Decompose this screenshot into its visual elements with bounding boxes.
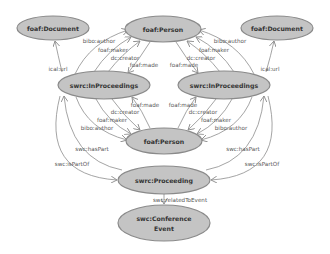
edge-label: swc:relatedToEvent [153, 197, 208, 203]
edge-label: foaf:maker [98, 47, 129, 53]
edge-label: foaf:made [131, 102, 160, 108]
node-proceeding[interactable]: swrc:Proceeding [118, 166, 210, 194]
node-label: foaf:Document [27, 25, 79, 32]
edge-is-part-of-left [56, 96, 117, 180]
edge-label: swc:hasPart [75, 146, 109, 152]
edge-label: dc:creator [111, 109, 140, 115]
edge-label: ical:url [49, 66, 68, 72]
node-document-left[interactable]: foaf:Document [17, 16, 89, 40]
edge-has-part-left [64, 96, 122, 170]
edge-label: ical:url [261, 66, 280, 72]
edge-label: foaf:made [169, 102, 198, 108]
node-label: foaf:Person [144, 138, 184, 145]
edge-has-part-right [206, 96, 264, 170]
edge-label: foaf:maker [97, 117, 128, 123]
edge-label: foaf:made [170, 62, 199, 68]
node-label-line2: Event [154, 225, 174, 232]
node-label-line1: swc:Conference [136, 215, 191, 222]
edge-label: bibo:author [214, 38, 247, 44]
node-inproceedings-right[interactable]: swrc:InProceedings [178, 71, 270, 99]
edge-label: swc:hasPart [226, 146, 260, 152]
node-inproceedings-left[interactable]: swrc:InProceedings [58, 71, 150, 99]
edge-label: dc:creator [187, 55, 216, 61]
edge-label: bibo:author [83, 38, 116, 44]
edge-label: bibo:author [215, 125, 248, 131]
edge-is-part-of-right [211, 96, 272, 180]
node-person-bottom[interactable]: foaf:Person [126, 128, 202, 154]
edge-label: dc:creator [189, 109, 218, 115]
node-label: swrc:InProceedings [190, 82, 259, 90]
node-label: foaf:Document [251, 25, 303, 32]
ontology-diagram: ical:url ical:url bibo:author foaf:maker… [0, 0, 330, 254]
edge-label: foaf:maker [201, 117, 232, 123]
edge-label: dc:creator [111, 55, 140, 61]
node-label: foaf:Person [143, 26, 183, 33]
node-label: swrc:Proceeding [135, 177, 193, 185]
edge-label: swc:isPartOf [245, 161, 280, 167]
node-person-top[interactable]: foaf:Person [125, 16, 201, 42]
node-document-right[interactable]: foaf:Document [241, 16, 313, 40]
edge-label: bibo:author [81, 125, 114, 131]
node-conference-event[interactable]: swc:Conference Event [118, 205, 210, 241]
node-label: swrc:InProceedings [70, 82, 139, 90]
edge-label: foaf:maker [199, 47, 230, 53]
edge-label: foaf:made [130, 62, 159, 68]
edge-label: swc:isPartOf [55, 161, 90, 167]
